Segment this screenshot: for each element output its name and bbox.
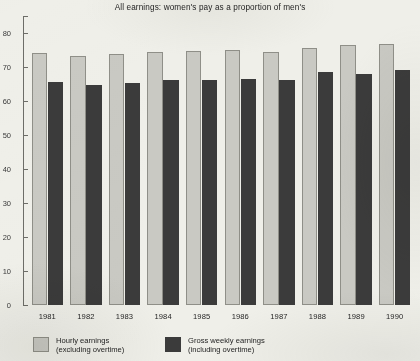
legend-label: Hourly earnings(excluding overtime)	[56, 336, 124, 355]
legend-label: Gross weekly earnings(including overtime…	[188, 336, 265, 355]
y-axis-tick	[23, 67, 28, 68]
y-axis-tick-label: 40	[0, 165, 11, 174]
y-axis-line	[23, 16, 24, 306]
chart-legend: Hourly earnings(excluding overtime)Gross…	[0, 336, 420, 361]
y-axis-tick	[23, 305, 28, 306]
legend-swatch-hourly-earnings	[33, 337, 49, 352]
y-axis-tick	[23, 203, 28, 204]
y-axis-tick-label: 10	[0, 267, 11, 276]
legend-item: Hourly earnings(excluding overtime)	[33, 336, 124, 355]
y-axis-tick	[23, 271, 28, 272]
y-axis-tick-label: 60	[0, 97, 11, 106]
y-axis-tick-label: 50	[0, 131, 11, 140]
y-axis-tick-label: 20	[0, 233, 11, 242]
y-axis-tick	[23, 135, 28, 136]
legend-label-line1: Gross weekly earnings	[188, 336, 265, 345]
legend-swatch-gross-weekly-earnings	[165, 337, 181, 352]
legend-label-line2: (excluding overtime)	[56, 345, 124, 354]
y-axis-tick-label: 80	[0, 29, 11, 38]
y-axis-tick	[23, 169, 28, 170]
y-axis-tick-label: 70	[0, 63, 11, 72]
plot-area: 01020304050607080	[0, 0, 420, 330]
y-axis-tick-label: 30	[0, 199, 11, 208]
y-axis-tick	[23, 237, 28, 238]
y-axis-top-cap	[23, 16, 28, 17]
y-axis-tick-label: 0	[0, 301, 11, 310]
y-axis-tick	[23, 101, 28, 102]
legend-label-line1: Hourly earnings	[56, 336, 124, 345]
chart-title: All earnings: women's pay as a proportio…	[0, 3, 420, 12]
y-axis-tick	[23, 33, 28, 34]
legend-label-line2: (including overtime)	[188, 345, 265, 354]
legend-item: Gross weekly earnings(including overtime…	[165, 336, 265, 355]
